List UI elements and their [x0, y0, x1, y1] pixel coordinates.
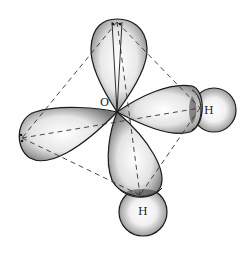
lone-pair-lobe-left	[19, 107, 117, 160]
hydrogen-label-right: H	[204, 104, 214, 117]
diagram-canvas: O H H	[0, 0, 248, 256]
hydrogen-label-bottom: H	[138, 205, 148, 218]
orbital-diagram: O H H	[0, 0, 248, 256]
oxygen-label: O	[100, 96, 109, 109]
